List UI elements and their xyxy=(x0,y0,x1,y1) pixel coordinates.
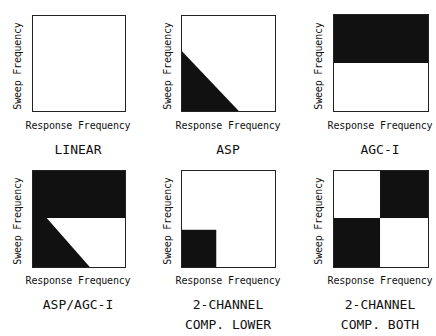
comp-lower-fill-shape xyxy=(182,171,275,267)
panel-caption-line2: COMP. LOWER xyxy=(185,317,271,332)
y-axis-label: Sweep Frequency xyxy=(313,177,324,264)
y-axis-label: Sweep Frequency xyxy=(12,22,23,109)
y-axis-label: Sweep Frequency xyxy=(12,177,23,264)
y-axis-label: Sweep Frequency xyxy=(162,22,173,109)
panel-caption: AGC-I xyxy=(360,142,399,157)
x-axis-label: Response Frequency xyxy=(26,275,131,286)
plot-asp-agc-i xyxy=(32,170,126,268)
asp-fill-shape xyxy=(182,16,275,111)
plot-agc-i xyxy=(333,14,429,112)
panel-caption-line1: 2-CHANNEL xyxy=(193,297,263,312)
x-axis-label: Response Frequency xyxy=(328,120,433,131)
panel-caption: ASP xyxy=(216,142,239,157)
x-axis-label: Response Frequency xyxy=(328,275,433,286)
x-axis-label: Response Frequency xyxy=(176,120,281,131)
panel-caption-line1: 2-CHANNEL xyxy=(345,297,415,312)
y-axis-label: Sweep Frequency xyxy=(313,22,324,109)
comp-both-fill-shape xyxy=(334,171,428,267)
agc-fill-shape xyxy=(334,15,428,111)
plot-asp xyxy=(181,15,276,112)
x-axis-label: Response Frequency xyxy=(176,275,281,286)
panel-caption: ASP/AGC-I xyxy=(43,297,113,312)
y-axis-label: Sweep Frequency xyxy=(162,177,173,264)
asp-agc-fill-shape xyxy=(33,171,125,267)
panel-caption-line2: COMP. BOTH xyxy=(341,317,419,332)
plot-2ch-comp-both xyxy=(333,170,429,268)
panel-caption: LINEAR xyxy=(55,142,102,157)
plot-2ch-comp-lower xyxy=(181,170,276,268)
plot-linear xyxy=(32,15,126,112)
x-axis-label: Response Frequency xyxy=(26,120,131,131)
